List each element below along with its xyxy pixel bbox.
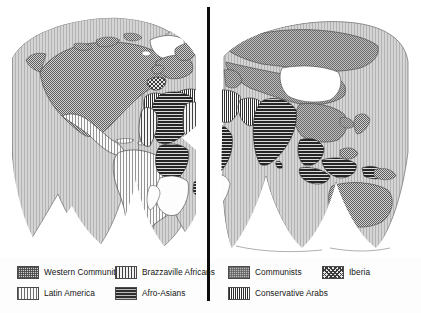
swatch-conservative-arabs-icon [228, 287, 250, 300]
swatch-afro-asians-icon [115, 287, 137, 300]
swatch-latin-america-icon [17, 287, 39, 300]
world-map [0, 0, 421, 258]
hemisphere-divider [207, 7, 210, 301]
legend-item-iberia[interactable]: Iberia [322, 264, 370, 281]
legend-column-3: Communists Conservative Arabs [228, 264, 328, 306]
legend-item-brazzaville-africans[interactable]: Brazzaville Africans [115, 264, 215, 281]
legend-label-iberia: Iberia [349, 267, 370, 278]
legend-column-4: Iberia [322, 264, 370, 285]
legend-item-afro-asians[interactable]: Afro-Asians [115, 285, 215, 302]
figure-canvas: Western Community Latin America Brazzavi… [0, 0, 421, 313]
legend-item-western-community[interactable]: Western Community [17, 264, 120, 281]
map-graphic [0, 0, 421, 258]
legend-label-western-community: Western Community [44, 267, 120, 278]
map-legend: Western Community Latin America Brazzavi… [0, 258, 421, 313]
legend-label-brazzaville-africans: Brazzaville Africans [142, 267, 215, 278]
swatch-brazzaville-africans-icon [115, 266, 137, 279]
legend-column-1: Western Community Latin America [17, 264, 120, 306]
legend-label-communists: Communists [255, 267, 302, 278]
legend-label-afro-asians: Afro-Asians [142, 288, 185, 299]
legend-column-2: Brazzaville Africans Afro-Asians [115, 264, 215, 306]
legend-item-conservative-arabs[interactable]: Conservative Arabs [228, 285, 328, 302]
swatch-communists-icon [228, 266, 250, 279]
legend-item-communists[interactable]: Communists [228, 264, 328, 281]
western-hemisphere [12, 18, 200, 250]
swatch-western-community-icon [17, 266, 39, 279]
legend-label-conservative-arabs: Conservative Arabs [255, 288, 328, 299]
eastern-hemisphere [208, 22, 408, 250]
swatch-iberia-icon [322, 266, 344, 279]
legend-label-latin-america: Latin America [44, 288, 95, 299]
legend-item-latin-america[interactable]: Latin America [17, 285, 120, 302]
